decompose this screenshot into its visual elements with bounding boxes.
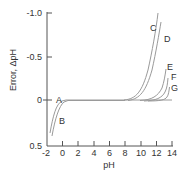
y-tick-label: 0 <box>37 95 42 105</box>
label-b: B <box>59 116 65 126</box>
label-e: E <box>167 62 173 72</box>
svg-text:2: 2 <box>75 148 80 158</box>
label-f: F <box>171 72 177 82</box>
y-tick-label: -0.5 <box>26 52 42 62</box>
y-ticks: -1.0 -0.5 0 0.5 <box>26 8 52 151</box>
label-g: G <box>171 83 178 93</box>
label-a: A <box>56 95 62 105</box>
y-axis-label: Error, ΔpH <box>8 49 18 91</box>
curve-labels: A B C D E F G <box>56 23 178 126</box>
svg-text:10: 10 <box>136 148 146 158</box>
x-axis-label: pH <box>103 160 115 170</box>
curve-f <box>144 78 168 101</box>
curve-a <box>50 100 172 133</box>
y-tick-label: -1.0 <box>26 8 42 18</box>
svg-text:14: 14 <box>167 148 177 158</box>
chart: -1.0 -0.5 0 0.5 -2 0 2 4 6 8 10 12 14 pH… <box>0 0 192 178</box>
svg-text:6: 6 <box>107 148 112 158</box>
svg-text:0: 0 <box>60 148 65 158</box>
x-tick-labels: -2 0 2 4 6 8 10 12 14 <box>42 148 177 158</box>
svg-text:8: 8 <box>122 148 127 158</box>
y-tick-label: 0.5 <box>29 141 42 151</box>
label-d: D <box>164 34 171 44</box>
svg-text:12: 12 <box>151 148 161 158</box>
label-c: C <box>150 23 157 33</box>
svg-text:4: 4 <box>91 148 96 158</box>
x-ticks <box>63 141 173 146</box>
svg-text:-2: -2 <box>42 148 50 158</box>
curve-d <box>128 22 161 101</box>
